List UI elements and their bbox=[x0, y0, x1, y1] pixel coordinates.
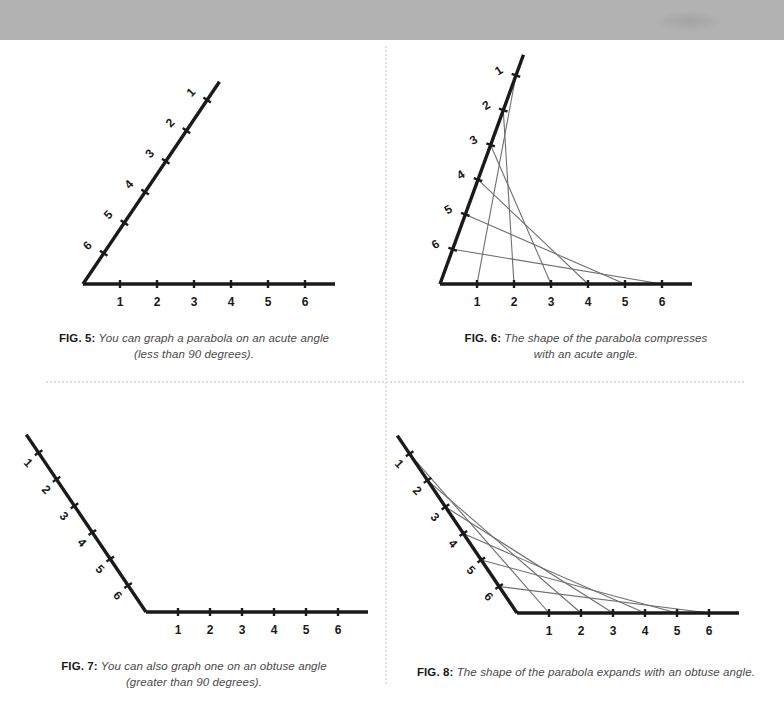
figure-label-fig8: FIG. 8: bbox=[417, 666, 453, 678]
horizontal-tick-label: 2 bbox=[511, 295, 518, 309]
angled-tick-mark bbox=[486, 143, 494, 146]
envelope-chord bbox=[478, 180, 588, 284]
horizontal-divider bbox=[46, 381, 746, 383]
figure-panel-fig6: 123456654321 bbox=[388, 44, 784, 344]
horizontal-tick-label: 5 bbox=[303, 623, 310, 637]
figure-caption-fig7: FIG. 7: You can also graph one on an obt… bbox=[20, 658, 368, 690]
horizontal-tick-label: 3 bbox=[610, 624, 617, 638]
horizontal-tick-label: 4 bbox=[228, 295, 235, 309]
angled-tick-label: 1 bbox=[21, 456, 36, 471]
horizontal-tick-label: 2 bbox=[154, 295, 161, 309]
horizontal-tick-label: 1 bbox=[117, 295, 124, 309]
angled-tick-label: 2 bbox=[39, 482, 54, 497]
angled-tick-label: 3 bbox=[428, 510, 443, 525]
horizontal-tick-label: 4 bbox=[642, 624, 649, 638]
figure-label-fig7: FIG. 7: bbox=[61, 660, 97, 672]
horizontal-tick-label: 5 bbox=[265, 295, 272, 309]
angled-tick-label: 3 bbox=[467, 132, 480, 148]
figure-caption-line2-fig5: (less than 90 degrees). bbox=[134, 348, 254, 360]
horizontal-tick-label: 5 bbox=[622, 295, 629, 309]
figure-caption-line1-fig8: The shape of the parabola expands with a… bbox=[457, 666, 755, 678]
horizontal-tick-label: 6 bbox=[706, 624, 713, 638]
angled-tick-mark bbox=[512, 74, 520, 77]
angled-tick-label: 6 bbox=[80, 238, 95, 253]
angled-tick-mark bbox=[448, 248, 456, 251]
figure-panel-fig8: 123456654321 bbox=[388, 390, 784, 660]
horizontal-tick-label: 3 bbox=[191, 295, 198, 309]
figure-label-fig5: FIG. 5: bbox=[59, 332, 95, 344]
angled-tick-label: 2 bbox=[410, 483, 425, 498]
angled-tick-mark bbox=[461, 213, 469, 216]
figure-caption-line2-fig6: with an acute angle. bbox=[534, 348, 638, 360]
horizontal-tick-label: 1 bbox=[474, 295, 481, 309]
vertical-divider bbox=[385, 44, 387, 684]
angled-tick-label: 4 bbox=[446, 536, 461, 551]
figure-caption-fig6: FIG. 6: The shape of the parabola compre… bbox=[400, 330, 772, 362]
angled-tick-label: 6 bbox=[481, 589, 496, 604]
figure-caption-line1-fig7: You can also graph one on an obtuse angl… bbox=[101, 660, 327, 672]
angled-tick-label: 1 bbox=[184, 85, 199, 100]
angled-tick-label: 5 bbox=[442, 202, 455, 218]
figure-caption-fig8: FIG. 8: The shape of the parabola expand… bbox=[396, 664, 776, 680]
envelope-chord bbox=[491, 145, 551, 284]
horizontal-tick-label: 6 bbox=[335, 623, 342, 637]
angled-tick-label: 5 bbox=[463, 563, 478, 578]
angled-tick-label: 3 bbox=[57, 509, 72, 524]
angled-tick-label: 1 bbox=[392, 457, 407, 472]
angled-tick-label: 6 bbox=[110, 588, 125, 603]
figure-drawing-fig8: 123456654321 bbox=[388, 390, 784, 660]
figure-label-fig6: FIG. 6: bbox=[465, 332, 501, 344]
envelope-chord-group bbox=[410, 454, 709, 613]
horizontal-tick-label: 2 bbox=[207, 623, 214, 637]
horizontal-tick-label: 6 bbox=[302, 295, 309, 309]
horizontal-tick-label: 2 bbox=[578, 624, 585, 638]
angled-tick-label: 3 bbox=[142, 146, 157, 161]
figure-caption-line1-fig5: You can graph a parabola on an acute ang… bbox=[99, 332, 330, 344]
angled-tick-mark bbox=[474, 178, 482, 181]
angled-tick-label: 2 bbox=[163, 115, 178, 130]
angled-tick-label: 2 bbox=[480, 97, 493, 113]
horizontal-tick-label: 3 bbox=[239, 623, 246, 637]
page-header-band bbox=[0, 0, 784, 40]
angled-tick-mark bbox=[499, 109, 507, 112]
horizontal-tick-label: 4 bbox=[585, 295, 592, 309]
figure-caption-fig5: FIG. 5: You can graph a parabola on an a… bbox=[20, 330, 368, 362]
angled-tick-label: 6 bbox=[429, 236, 442, 252]
horizontal-tick-label: 1 bbox=[546, 624, 553, 638]
horizontal-tick-label: 3 bbox=[548, 295, 555, 309]
horizontal-tick-label: 5 bbox=[674, 624, 681, 638]
figure-drawing-fig7: 123456654321 bbox=[0, 390, 385, 660]
figure-drawing-fig6: 123456654321 bbox=[388, 44, 784, 344]
horizontal-tick-label: 4 bbox=[271, 623, 278, 637]
angled-tick-label: 4 bbox=[75, 535, 90, 550]
figure-panel-fig7: 123456654321 bbox=[0, 390, 385, 660]
envelope-chord bbox=[445, 507, 613, 613]
figure-caption-line1-fig6: The shape of the parabola compresses bbox=[504, 332, 707, 344]
angled-tick-label: 5 bbox=[101, 207, 116, 222]
header-smudge-artifact bbox=[654, 10, 724, 32]
horizontal-tick-label: 1 bbox=[175, 623, 182, 637]
horizontal-tick-label: 6 bbox=[659, 295, 666, 309]
angled-tick-label: 4 bbox=[454, 167, 467, 183]
figure-caption-line2-fig7: (greater than 90 degrees). bbox=[126, 676, 262, 688]
figure-drawing-fig5: 123456654321 bbox=[0, 44, 385, 344]
angled-tick-label: 4 bbox=[122, 177, 137, 192]
angled-tick-label: 1 bbox=[492, 63, 505, 79]
figure-panel-fig5: 123456654321 bbox=[0, 44, 385, 344]
angled-tick-label: 5 bbox=[92, 562, 107, 577]
